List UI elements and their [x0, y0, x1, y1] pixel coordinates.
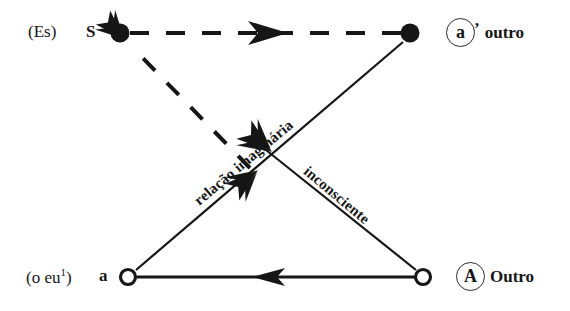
- node-aprime-label-group: a ’ outro: [446, 18, 524, 47]
- node-aprime-word: outro: [485, 23, 524, 43]
- node-S-letter-label: S: [86, 23, 95, 40]
- node-S-dot: [111, 24, 130, 43]
- node-a-paren-open: (o eu: [26, 268, 60, 287]
- node-A-ring: [416, 270, 431, 285]
- node-aprime-dot: [401, 24, 420, 43]
- edge-aprime-to-a: [136, 42, 403, 270]
- schema-l-diagram: (Es) S a ’ outro (o eu1) a A Outro relaç…: [0, 0, 570, 311]
- node-a-ring: [121, 270, 136, 285]
- node-A-word: Outro: [490, 267, 534, 287]
- edge-a-to-S: [132, 47, 250, 168]
- node-S-paren-label: (Es): [28, 23, 56, 40]
- node-A-label-group: A Outro: [456, 262, 534, 291]
- node-aprime-circled-letter: a: [446, 18, 475, 47]
- node-a-paren-label: (o eu1): [26, 267, 72, 286]
- node-a-letter-label: a: [99, 267, 108, 284]
- node-a-paren-close: ): [66, 268, 72, 287]
- node-aprime-prime-mark: ’: [474, 19, 480, 39]
- node-A-circled-letter: A: [456, 262, 485, 291]
